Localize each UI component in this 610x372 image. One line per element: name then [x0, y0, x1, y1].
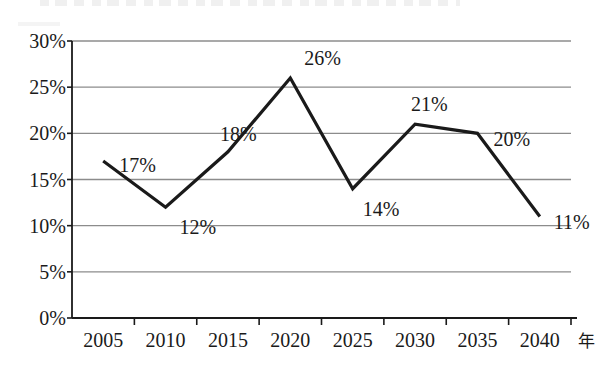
- x-tick-label-2040: 2040: [508, 330, 572, 350]
- data-label-2005: 17%: [119, 155, 156, 175]
- x-tick-label-2025: 2025: [321, 330, 385, 350]
- y-tick-label-0: 0%: [8, 308, 66, 328]
- x-tick-label-2005: 2005: [71, 330, 135, 350]
- data-label-2015: 18%: [220, 124, 257, 144]
- y-tick-label-25: 25%: [8, 77, 66, 97]
- y-tick-label-20: 20%: [8, 123, 66, 143]
- x-tick-label-2035: 2035: [445, 330, 509, 350]
- x-axis-unit-label: 年: [578, 333, 595, 350]
- data-label-2010: 12%: [180, 217, 217, 237]
- data-label-2025: 14%: [363, 199, 400, 219]
- line-chart: 0%5%10%15%20%25%30% 20052010201520202025…: [0, 0, 610, 372]
- data-series-line: [103, 78, 540, 217]
- data-label-2035: 20%: [493, 129, 530, 149]
- y-tick-label-30: 30%: [8, 31, 66, 51]
- data-label-2030: 21%: [411, 94, 448, 114]
- x-tick-marks-group: [134, 318, 571, 325]
- data-label-2040: 11%: [554, 212, 590, 232]
- data-label-2020: 26%: [304, 48, 341, 68]
- x-tick-label-2015: 2015: [196, 330, 260, 350]
- x-tick-label-2030: 2030: [383, 330, 447, 350]
- x-tick-label-2010: 2010: [134, 330, 198, 350]
- y-tick-label-10: 10%: [8, 216, 66, 236]
- y-tick-label-5: 5%: [8, 262, 66, 282]
- x-tick-label-2020: 2020: [258, 330, 322, 350]
- y-tick-label-15: 15%: [8, 170, 66, 190]
